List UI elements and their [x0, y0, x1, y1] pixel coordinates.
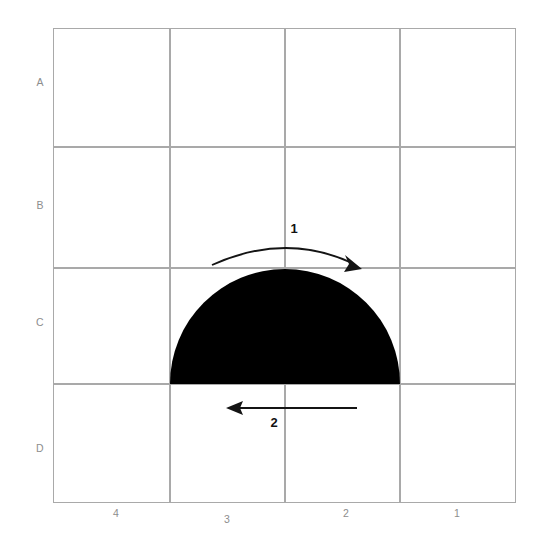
grid-diagram: A B C D 4 3 2 1 1 2	[0, 0, 542, 547]
annotation-label-1: 1	[290, 221, 297, 236]
column-label-2: 2	[343, 507, 349, 519]
semicircle-shape	[170, 269, 400, 384]
column-label-3: 3	[224, 513, 230, 525]
row-label-d: D	[36, 442, 44, 454]
row-label-a: A	[36, 76, 43, 88]
figure-canvas: A B C D 4 3 2 1 1 2	[0, 0, 542, 547]
column-label-4: 4	[113, 507, 119, 519]
row-label-b: B	[36, 199, 43, 211]
arrow-1-curve	[212, 248, 352, 265]
column-label-1: 1	[454, 507, 460, 519]
row-label-c: C	[36, 316, 44, 328]
arrow-1-head-icon	[344, 255, 362, 272]
annotation-label-2: 2	[270, 415, 277, 430]
